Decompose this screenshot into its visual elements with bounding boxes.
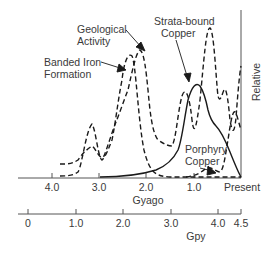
banded-iron-label: Formation (44, 68, 91, 80)
gyago-tick-label: 4.0 (45, 181, 60, 193)
gpy-tick-label: 2.0 (116, 217, 131, 229)
gpy-tick-label: 4.5 (234, 217, 249, 229)
gyago-axis-title: Gyago (133, 194, 164, 206)
gpy-axis-title: Gpy (186, 230, 206, 242)
gpy-tick-label: 3.0 (164, 217, 179, 229)
gyago-tick-label: 2.0 (139, 181, 154, 193)
gyago-tick-label: 3.0 (92, 181, 107, 193)
gyago-tick-label: 1.0 (187, 181, 202, 193)
gpy-tick-label: 1.0 (69, 217, 84, 229)
gyago-tick-label: Present (224, 181, 260, 193)
gpy-tick-label: 4.0 (211, 217, 226, 229)
gpy-tick-label: 0 (25, 217, 31, 229)
geological-activity-label: Activity (77, 35, 111, 47)
strata-bound-copper-label: Strata-bound (154, 15, 215, 27)
gpy-ticks (28, 209, 241, 214)
strata-bound-copper-label: Copper (161, 27, 196, 39)
relative-axis-title: Relative (250, 63, 262, 101)
porphyry-copper-label: Copper (185, 155, 220, 167)
geological-activity-label: Geological (77, 23, 127, 35)
geological-activity-chart: 4.0 3.0 2.0 1.0 Present Gyago 0 1.0 2.0 … (0, 0, 273, 254)
banded-iron-label: Banded Iron (44, 56, 101, 68)
porphyry-copper-label: Porphyry (185, 143, 228, 155)
